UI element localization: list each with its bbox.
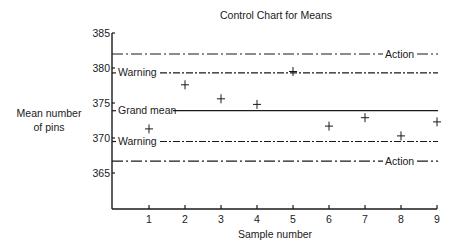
y-tick-label: 385 (92, 27, 110, 39)
data-point-plus-marker (217, 94, 225, 103)
x-axis-label: Sample number (238, 228, 313, 240)
x-tick-label: 5 (290, 213, 296, 225)
data-points (145, 67, 441, 140)
data-point-plus-marker (361, 113, 369, 122)
reference-line-grand-mean: Grand mean (112, 104, 438, 116)
y-tick-label: 370 (92, 132, 110, 144)
reference-line-label: Warning (118, 66, 157, 78)
x-tick-label: 9 (434, 213, 440, 225)
x-tick-label: 3 (218, 213, 224, 225)
x-tick-label: 4 (254, 213, 260, 225)
x-tick-label: 6 (326, 213, 332, 225)
control-chart: Control Chart for Means Mean number of p… (0, 0, 465, 244)
y-axis-label-line-2: of pins (34, 121, 65, 133)
data-point-plus-marker (325, 122, 333, 131)
reference-line-lower-warning: Warning (112, 135, 438, 147)
y-axis-label-line-1: Mean number (17, 107, 82, 119)
y-tick-label: 375 (92, 97, 110, 109)
data-point-plus-marker (181, 80, 189, 89)
reference-lines: ActionWarningGrand meanWarningAction (112, 48, 438, 167)
y-tick-label: 365 (92, 167, 110, 179)
x-tick-label: 2 (182, 213, 188, 225)
reference-line-label: Grand mean (118, 104, 177, 116)
x-tick-label: 8 (398, 213, 404, 225)
reference-line-label: Action (385, 155, 414, 167)
x-tick-label: 1 (146, 213, 152, 225)
reference-line-label: Action (385, 48, 414, 60)
data-point-plus-marker (253, 100, 261, 109)
chart-title: Control Chart for Means (220, 9, 332, 21)
reference-line-lower-action: Action (112, 155, 438, 167)
reference-line-upper-action: Action (112, 48, 438, 60)
data-point-plus-marker (289, 67, 297, 76)
reference-line-label: Warning (118, 135, 157, 147)
data-point-plus-marker (145, 124, 153, 133)
x-tick-label: 7 (362, 213, 368, 225)
y-axis-label: Mean number of pins (17, 107, 82, 133)
reference-line-upper-warning: Warning (112, 66, 438, 78)
data-point-plus-marker (433, 117, 441, 126)
data-point-plus-marker (397, 131, 405, 140)
y-tick-label: 380 (92, 62, 110, 74)
